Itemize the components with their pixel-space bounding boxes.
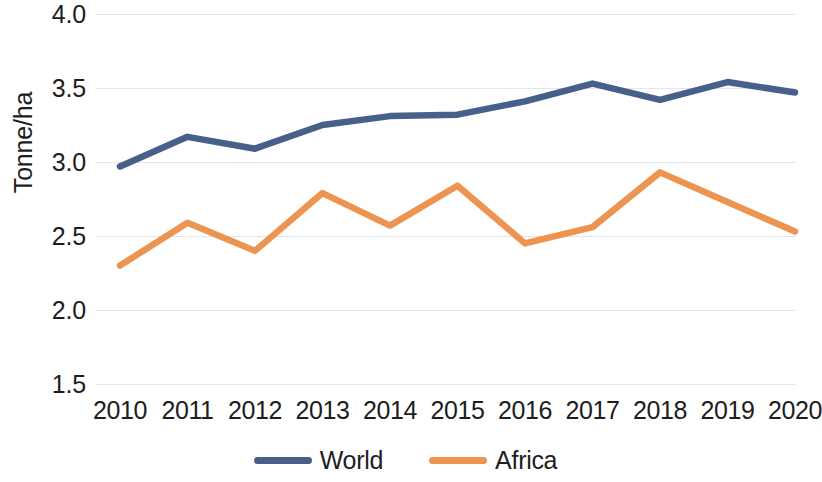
- x-axis-tick-label: 2014: [363, 396, 417, 425]
- legend-swatch-icon: [254, 457, 312, 464]
- x-axis-tick-label: 2013: [295, 396, 349, 425]
- legend-swatch-icon: [429, 457, 487, 464]
- x-axis-tick-label: 2017: [565, 396, 619, 425]
- x-axis-tick-label: 2015: [430, 396, 484, 425]
- series-line-africa: [120, 172, 795, 265]
- x-axis-tick-label: 2016: [498, 396, 552, 425]
- legend-item-africa[interactable]: Africa: [429, 446, 557, 475]
- x-axis-tick-label: 2020: [768, 396, 822, 425]
- series-lines: [96, 0, 796, 386]
- chart-legend: WorldAfrica: [0, 446, 811, 475]
- legend-label: Africa: [495, 446, 557, 475]
- x-axis-tick-label: 2010: [93, 396, 147, 425]
- y-axis-tick-label: 2.0: [28, 296, 86, 325]
- legend-item-world[interactable]: World: [254, 446, 383, 475]
- x-axis-tick-label: 2018: [633, 396, 687, 425]
- plot-area: [96, 0, 796, 386]
- x-axis-tick-labels: 2010201120122013201420152016201720182019…: [96, 396, 796, 430]
- legend-label: World: [320, 446, 383, 475]
- y-axis-tick-label: 3.5: [28, 74, 86, 103]
- x-axis-tick-label: 2019: [700, 396, 754, 425]
- x-axis-tick-label: 2011: [161, 396, 213, 425]
- y-axis-tick-label: 4.0: [28, 0, 86, 29]
- y-axis-tick-label: 1.5: [28, 370, 86, 399]
- series-line-world: [120, 82, 795, 166]
- y-axis-tick-label: 2.5: [28, 222, 86, 251]
- x-axis-tick-label: 2012: [228, 396, 282, 425]
- y-axis-tick-label: 3.0: [28, 148, 86, 177]
